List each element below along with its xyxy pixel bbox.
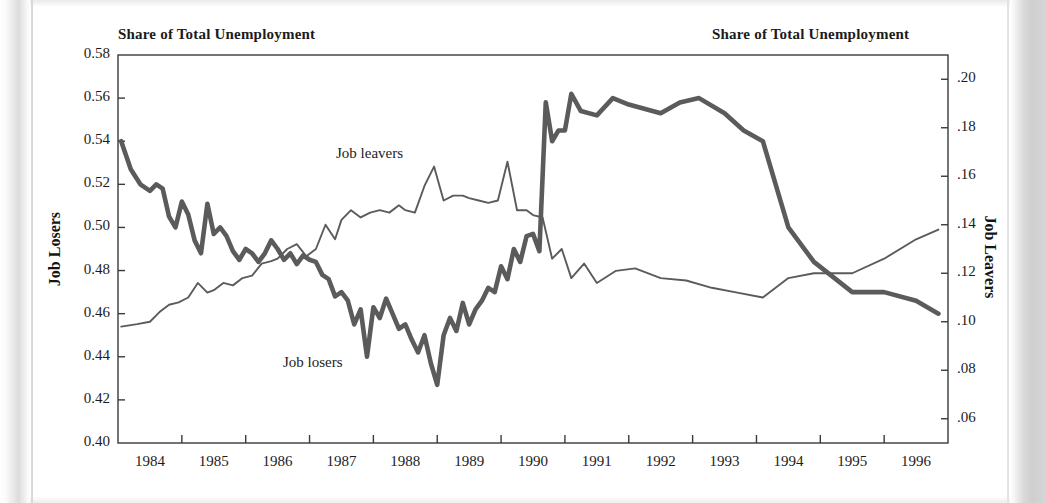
x-tick-label: 1986	[243, 453, 313, 470]
scanned-page: Share of Total Unemployment Share of Tot…	[0, 0, 1046, 503]
x-tick-label: 1989	[434, 453, 504, 470]
y-tick-label-right: .06	[957, 409, 1005, 426]
y-tick-label-right: .18	[957, 118, 1005, 135]
x-tick-label: 1984	[115, 453, 185, 470]
chart-axes	[118, 55, 948, 443]
y-tick-label-left: 0.44	[62, 347, 110, 364]
x-tick-label: 1994	[753, 453, 823, 470]
x-tick-label: 1985	[179, 453, 249, 470]
x-tick-label: 1990	[498, 453, 568, 470]
y-tick-label-left: 0.46	[62, 304, 110, 321]
y-tick-label-left: 0.54	[62, 131, 110, 148]
series-line-job-losers	[121, 94, 938, 385]
x-tick-label: 1991	[562, 453, 632, 470]
series-line-job-leavers	[121, 162, 938, 327]
x-tick-label: 1993	[690, 453, 760, 470]
y-tick-label-right: .14	[957, 215, 1005, 232]
y-tick-label-left: 0.40	[62, 433, 110, 450]
x-tick-label: 1995	[817, 453, 887, 470]
x-tick-label: 1987	[306, 453, 376, 470]
chart-series	[121, 94, 938, 385]
y-tick-label-left: 0.50	[62, 217, 110, 234]
y-tick-label-right: .12	[957, 263, 1005, 280]
series-annotation-losers: Job losers	[283, 354, 343, 371]
x-tick-label: 1992	[626, 453, 696, 470]
line-chart	[0, 0, 1046, 503]
x-tick-label: 1996	[881, 453, 951, 470]
y-tick-label-left: 0.56	[62, 88, 110, 105]
y-tick-label-left: 0.52	[62, 174, 110, 191]
series-annotation-leavers: Job leavers	[336, 145, 403, 162]
y-tick-label-left: 0.48	[62, 261, 110, 278]
x-tick-label: 1988	[370, 453, 440, 470]
y-tick-label-right: .08	[957, 360, 1005, 377]
y-tick-label-right: .10	[957, 312, 1005, 329]
y-tick-label-right: .16	[957, 166, 1005, 183]
y-tick-label-left: 0.42	[62, 390, 110, 407]
plot-frame	[118, 55, 948, 443]
y-tick-label-right: .20	[957, 69, 1005, 86]
y-tick-label-left: 0.58	[62, 45, 110, 62]
